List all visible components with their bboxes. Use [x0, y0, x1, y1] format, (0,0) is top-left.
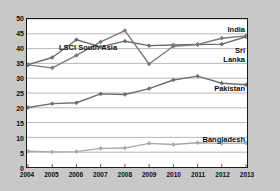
y-axis-tick-label: 10 [2, 135, 24, 142]
y-axis-tick-label: 15 [2, 120, 24, 127]
series-label-bangladesh: Bangladesh [202, 136, 245, 144]
data-point-marker [99, 146, 103, 150]
x-axis-tick-label: 2006 [69, 171, 83, 179]
x-axis-tick-label: 2009 [142, 171, 156, 179]
data-point-marker [75, 101, 79, 105]
x-axis-tick-label: 2008 [118, 171, 132, 179]
x-axis-tick-labels: 2004200520062007200820092010201120122013 [26, 171, 248, 183]
x-axis-tick-label: 2011 [191, 171, 205, 179]
plot-area: LSCI South Asia India Sri Lanka Pakistan… [26, 18, 248, 168]
series-line [28, 143, 246, 152]
data-point-marker [27, 149, 30, 153]
data-point-marker [171, 143, 175, 147]
data-point-marker [147, 44, 151, 48]
data-point-marker [196, 43, 200, 47]
data-point-marker [123, 39, 127, 43]
y-axis-tick-label: 5 [2, 150, 24, 157]
x-axis-tick-label: 2004 [20, 171, 34, 179]
data-point-marker [220, 42, 224, 46]
data-point-marker [171, 78, 175, 82]
x-axis-tick-label: 2013 [240, 171, 254, 179]
data-point-marker [147, 87, 151, 91]
x-axis-tick-label: 2007 [93, 171, 107, 179]
x-axis-tick-label: 2010 [166, 171, 180, 179]
data-point-marker [50, 150, 54, 154]
series-label-sri-lanka-line1: Sri [235, 47, 245, 55]
y-axis-tick-label: 50 [2, 15, 24, 22]
plot-svg [27, 19, 247, 167]
data-point-marker [147, 141, 151, 145]
y-axis-tick-label: 35 [2, 60, 24, 67]
data-point-marker [75, 150, 79, 154]
series-label-sri-lanka-line2: Lanka [223, 56, 245, 64]
y-axis-tick-label: 45 [2, 30, 24, 37]
y-axis-tick-labels: 05101520253035404550 [0, 18, 24, 168]
chart-title: LSCI South Asia [59, 43, 117, 52]
series-label-pakistan: Pakistan [214, 85, 245, 93]
data-point-marker [220, 36, 224, 40]
x-axis-tick-label: 2012 [215, 171, 229, 179]
data-point-marker [196, 141, 200, 145]
chart-figure: 05101520253035404550 LSCI South Asia Ind… [0, 0, 280, 191]
y-axis-tick-label: 20 [2, 105, 24, 112]
data-point-marker [50, 102, 54, 106]
y-axis-tick-label: 40 [2, 45, 24, 52]
x-axis-tick-label: 2005 [44, 171, 58, 179]
data-point-marker [123, 146, 127, 150]
data-point-marker [27, 106, 30, 110]
y-axis-tick-label: 30 [2, 75, 24, 82]
data-point-marker [99, 92, 103, 96]
data-point-marker [196, 74, 200, 78]
x-axis-ticks [28, 164, 246, 167]
series-label-india: India [227, 26, 245, 34]
y-axis-tick-label: 25 [2, 90, 24, 97]
